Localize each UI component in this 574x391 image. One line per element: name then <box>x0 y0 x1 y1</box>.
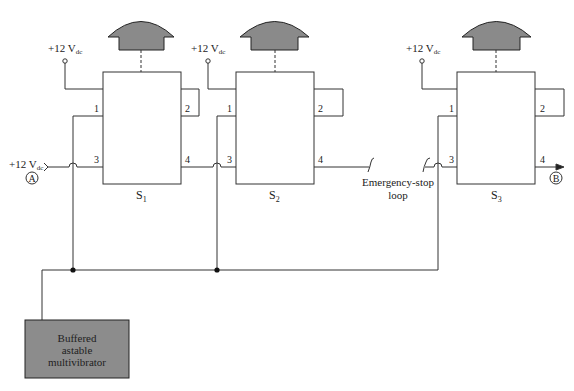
s3-label: S3 <box>491 188 502 204</box>
s1-label: S1 <box>136 188 147 204</box>
pushbutton-s3-icon <box>462 22 531 51</box>
s2-pin3: 3 <box>227 154 232 165</box>
input-chevron-icon <box>44 163 48 171</box>
s2-pin1: 1 <box>227 103 232 114</box>
s3-pin1: 1 <box>449 103 454 114</box>
multivibrator-line2: astable <box>62 344 93 356</box>
clock-bus <box>42 270 438 320</box>
s3-pin4: 4 <box>540 154 545 165</box>
loop-label-line2: loop <box>388 189 408 201</box>
supply-label-s2: +12 Vdc <box>191 42 225 56</box>
loop-label-line1: Emergency-stop <box>362 176 434 188</box>
supply-label-s3: +12 Vdc <box>406 42 440 56</box>
output-arrow-icon <box>556 164 564 170</box>
s2-pin2: 2 <box>318 103 323 114</box>
s3-pin3: 3 <box>449 154 454 165</box>
s2-pin4: 4 <box>318 154 323 165</box>
s1-pin3: 3 <box>94 154 99 165</box>
switch-s3 <box>420 22 564 271</box>
pushbutton-s2-icon <box>240 22 309 51</box>
junction-dot <box>214 267 219 272</box>
multivibrator-line1: Buffered <box>58 332 97 344</box>
s1-pin1: 1 <box>94 103 99 114</box>
node-b-label: B <box>553 173 560 184</box>
supply-label-input: +12 Vdc <box>9 158 43 172</box>
switch-s2 <box>206 22 374 271</box>
supply-label-s1: +12 Vdc <box>48 42 82 56</box>
multivibrator-line3: multivibrator <box>48 356 106 368</box>
junction-dot <box>70 267 75 272</box>
circuit-diagram: +12 Vdc +12 Vdc +12 Vdc +12 Vdc A B 1 2 … <box>0 0 574 391</box>
node-a-label: A <box>28 173 36 184</box>
pushbutton-s1-icon <box>108 22 174 51</box>
s3-pin2: 2 <box>540 103 545 114</box>
s2-label: S2 <box>269 188 280 204</box>
s1-pin4: 4 <box>185 154 190 165</box>
s1-pin2: 2 <box>185 103 190 114</box>
